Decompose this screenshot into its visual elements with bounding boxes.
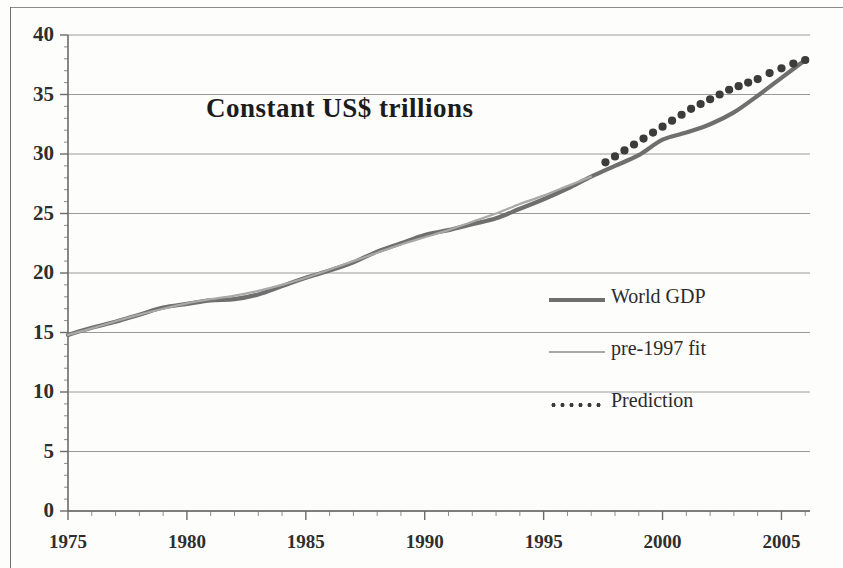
y-tick-label-15: 15 xyxy=(8,322,54,343)
chart-title: Constant US$ trillions xyxy=(206,93,474,124)
x-tick-label-2005: 2005 xyxy=(741,532,821,551)
prediction-point xyxy=(777,64,785,72)
y-tick-label-30: 30 xyxy=(8,143,54,164)
prediction-point xyxy=(735,82,743,90)
prediction-point xyxy=(658,123,666,131)
prediction-point xyxy=(639,134,647,142)
legend-label-prediction: Prediction xyxy=(611,389,693,412)
x-tick-label-2000: 2000 xyxy=(623,532,703,551)
y-tick-label-0: 0 xyxy=(8,500,54,521)
y-tick-label-10: 10 xyxy=(8,381,54,402)
x-tick-label-1975: 1975 xyxy=(28,532,108,551)
prediction-point xyxy=(668,117,676,125)
x-tick-label-1995: 1995 xyxy=(504,532,584,551)
prediction-point xyxy=(725,86,733,94)
legend-label-world-gdp: World GDP xyxy=(611,285,706,308)
chart-legend: World GDP pre-1997 fit Prediction xyxy=(549,283,799,439)
prediction-point xyxy=(801,56,809,64)
prediction-point xyxy=(754,75,762,83)
y-tick-label-35: 35 xyxy=(8,84,54,105)
x-tick-label-1985: 1985 xyxy=(266,532,346,551)
dotted-line-icon xyxy=(549,401,603,407)
prediction-point xyxy=(611,152,619,160)
y-tick-label-25: 25 xyxy=(8,203,54,224)
legend-label-pre-1997-fit: pre-1997 fit xyxy=(611,337,706,360)
prediction-point xyxy=(687,105,695,113)
prediction-point xyxy=(601,158,609,166)
legend-item-world-gdp: World GDP xyxy=(549,283,799,335)
prediction-point xyxy=(620,146,628,154)
x-tick-label-1980: 1980 xyxy=(147,532,227,551)
prediction-point xyxy=(630,140,638,148)
y-tick-label-5: 5 xyxy=(8,441,54,462)
prediction-point xyxy=(744,79,752,87)
legend-item-pre-1997-fit: pre-1997 fit xyxy=(549,335,799,387)
x-tick-label-1990: 1990 xyxy=(385,532,465,551)
solid-thick-line-icon xyxy=(549,298,605,312)
chart-figure: 4035302520151050 19751980198519901995200… xyxy=(0,0,843,568)
prediction-point xyxy=(677,111,685,119)
y-tick-label-20: 20 xyxy=(8,262,54,283)
prediction-point xyxy=(716,90,724,98)
prediction-point xyxy=(706,95,714,103)
prediction-point xyxy=(649,128,657,136)
y-tick-label-40: 40 xyxy=(8,24,54,45)
solid-thin-line-icon xyxy=(549,351,605,363)
prediction-point xyxy=(765,69,773,77)
legend-item-prediction: Prediction xyxy=(549,387,799,439)
prediction-point xyxy=(697,100,705,108)
prediction-point xyxy=(789,59,797,67)
